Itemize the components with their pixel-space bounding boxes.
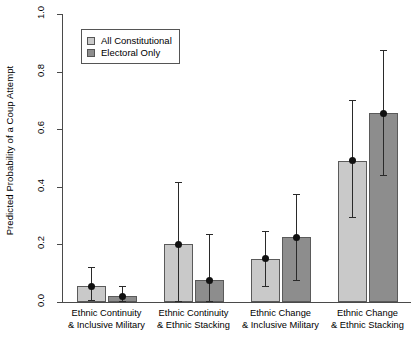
x-axis-group-label-line: & Inclusive Military — [59, 320, 155, 332]
error-bar-cap — [380, 175, 387, 176]
data-point — [119, 293, 126, 300]
chart-figure: Predicted Probability of a Coup Attempt … — [0, 0, 417, 362]
data-point — [262, 255, 269, 262]
legend-swatch-icon — [87, 37, 95, 45]
x-axis-group-label-line: Ethnic Continuity — [59, 308, 155, 320]
error-bar-cap — [262, 286, 269, 287]
legend-swatch-icon — [87, 49, 95, 57]
data-point — [380, 110, 387, 117]
y-axis-tick-label: 0.6 — [30, 122, 52, 133]
x-axis-group-label-line: Ethnic Change — [233, 308, 329, 320]
data-point — [293, 234, 300, 241]
error-bar-cap — [349, 217, 356, 218]
y-axis-tick-label: 1.0 — [30, 7, 52, 18]
error-bar-cap — [293, 280, 300, 281]
data-point — [349, 157, 356, 164]
legend-label: All Constitutional — [101, 35, 172, 46]
error-bar-cap — [119, 286, 126, 287]
x-axis-group-label: Ethnic Change& Inclusive Military — [233, 308, 329, 331]
x-axis-group-label: Ethnic Continuity& Inclusive Military — [59, 308, 155, 331]
y-axis-tick-label: 0.0 — [30, 295, 52, 306]
x-axis-group-label: Ethnic Continuity& Ethnic Stacking — [146, 308, 242, 331]
y-axis-tick-label: 0.4 — [30, 180, 52, 191]
x-axis-group-label-line: & Ethnic Stacking — [146, 320, 242, 332]
legend-item: All Constitutional — [87, 35, 172, 46]
error-bar-cap — [88, 267, 95, 268]
x-axis-group-label-line: Ethnic Change — [320, 308, 416, 320]
error-bar-cap — [206, 234, 213, 235]
y-axis-tick-label: 0.8 — [30, 65, 52, 76]
x-axis-group-label-line: Ethnic Continuity — [146, 308, 242, 320]
error-bar-cap — [349, 100, 356, 101]
chart-legend: All Constitutional Electoral Only — [81, 29, 180, 64]
error-bar-cap — [262, 231, 269, 232]
error-bar-cap — [119, 301, 126, 302]
legend-label: Electoral Only — [101, 47, 160, 58]
error-bar-cap — [175, 182, 182, 183]
x-axis-group-label-line: & Inclusive Military — [233, 320, 329, 332]
data-point — [175, 241, 182, 248]
data-point — [206, 277, 213, 284]
data-point — [88, 283, 95, 290]
legend-item: Electoral Only — [87, 47, 172, 58]
error-bar-cap — [293, 194, 300, 195]
error-bar-cap — [380, 50, 387, 51]
error-bar — [209, 234, 210, 300]
x-axis-group-label-line: & Ethnic Stacking — [320, 320, 416, 332]
error-bar-cap — [88, 300, 95, 301]
error-bar-cap — [175, 301, 182, 302]
x-axis-line — [62, 302, 411, 303]
y-axis-tick-label: 0.2 — [30, 237, 52, 248]
error-bar-cap — [206, 301, 213, 302]
x-axis-group-label: Ethnic Change& Ethnic Stacking — [320, 308, 416, 331]
y-axis-title: Predicted Probability of a Coup Attempt — [2, 0, 18, 300]
